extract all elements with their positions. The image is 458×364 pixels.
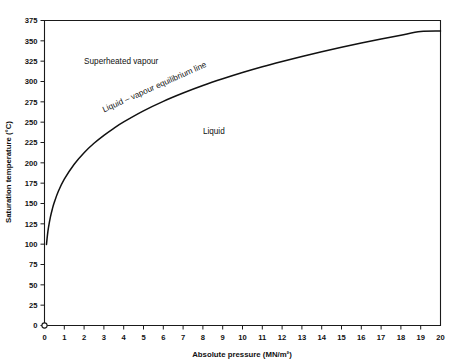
x-tick-label: 16 xyxy=(357,333,365,342)
y-tick-label: 300 xyxy=(25,77,38,86)
annotation-superheated-vapour: Superheated vapour xyxy=(84,57,158,66)
chart-figure: 0255075100125150175200225250275300325350… xyxy=(0,0,458,364)
x-tick-label: 11 xyxy=(258,333,267,342)
x-tick-label: 15 xyxy=(337,333,346,342)
x-tick-label: 1 xyxy=(62,333,67,342)
y-tick-label: 25 xyxy=(29,301,38,310)
y-tick-label: 375 xyxy=(25,16,38,25)
saturation-curve-chart: 0255075100125150175200225250275300325350… xyxy=(0,0,458,364)
y-tick-label: 175 xyxy=(25,179,38,188)
annotation-liquid: Liquid xyxy=(203,127,225,136)
y-tick-label: 200 xyxy=(25,159,38,168)
x-tick-label: 18 xyxy=(397,333,405,342)
y-tick-label: 225 xyxy=(25,138,38,147)
x-tick-label: 20 xyxy=(436,333,444,342)
y-tick-label: 150 xyxy=(25,199,38,208)
y-tick-label: 250 xyxy=(25,118,38,127)
y-tick-label: 75 xyxy=(29,260,38,269)
y-axis-ticks xyxy=(41,21,45,326)
x-tick-label: 13 xyxy=(298,333,306,342)
x-tick-label: 3 xyxy=(102,333,106,342)
origin-marker-icon xyxy=(42,323,47,328)
y-tick-label: 0 xyxy=(33,321,37,330)
x-tick-label: 12 xyxy=(278,333,286,342)
x-tick-label: 8 xyxy=(201,333,205,342)
x-tick-label: 17 xyxy=(377,333,385,342)
x-tick-label: 0 xyxy=(42,333,46,342)
x-axis-ticks xyxy=(64,326,420,330)
y-tick-label: 100 xyxy=(25,240,38,249)
y-axis-tick-labels: 0255075100125150175200225250275300325350… xyxy=(25,16,38,330)
x-axis-tick-labels: 01234567891011121314151617181920 xyxy=(42,333,444,342)
x-tick-label: 6 xyxy=(161,333,165,342)
x-axis-title: Absolute pressure (MN/m²) xyxy=(192,350,292,359)
x-tick-label: 5 xyxy=(141,333,146,342)
plot-frame xyxy=(45,21,441,326)
y-tick-label: 275 xyxy=(25,98,38,107)
x-tick-label: 14 xyxy=(317,333,326,342)
x-tick-label: 10 xyxy=(238,333,246,342)
x-tick-label: 2 xyxy=(82,333,86,342)
x-tick-label: 7 xyxy=(181,333,185,342)
x-tick-label: 9 xyxy=(221,333,225,342)
y-tick-label: 50 xyxy=(29,281,37,290)
y-tick-label: 350 xyxy=(25,37,38,46)
x-tick-label: 4 xyxy=(122,333,127,342)
y-tick-label: 325 xyxy=(25,57,38,66)
y-axis-title: Saturation temperature (°C) xyxy=(4,121,13,223)
y-tick-label: 125 xyxy=(25,220,38,229)
x-tick-label: 19 xyxy=(416,333,424,342)
